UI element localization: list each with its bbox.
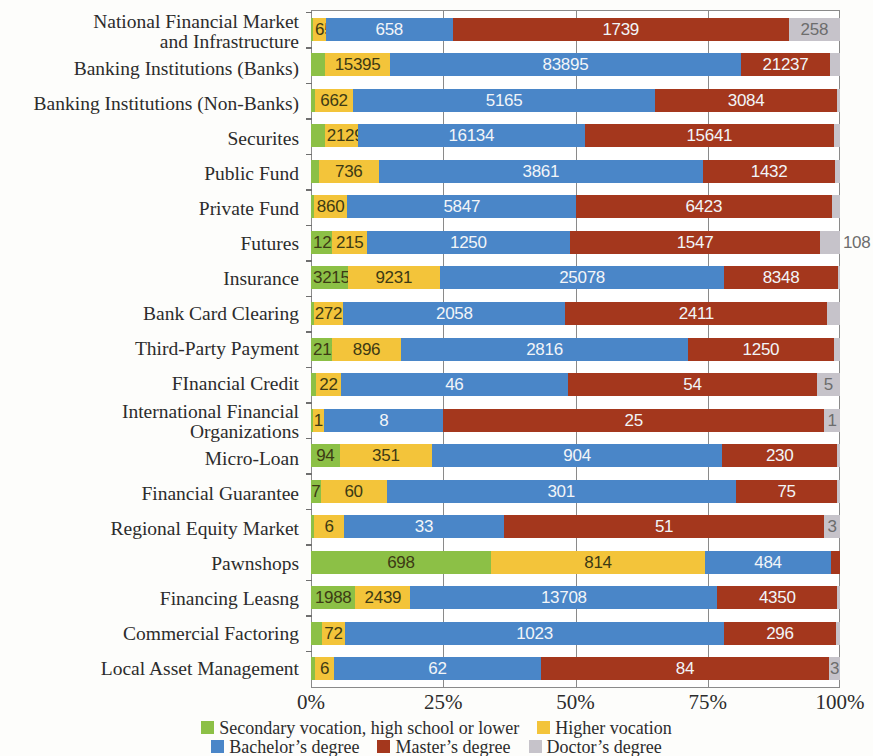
y-axis-label-line: Insurance xyxy=(223,269,299,289)
y-axis-label: Public Fund xyxy=(0,157,305,192)
bar-value-label: 2058 xyxy=(436,305,473,322)
bar-segment-higher-vocation: 6 xyxy=(315,657,335,680)
legend-label: Doctor’s degree xyxy=(547,738,662,756)
bar-value-label: 484 xyxy=(754,554,781,571)
bar-value-label: 351 xyxy=(372,447,399,464)
bar-segment-higher-vocation: 896 xyxy=(332,338,401,361)
legend-swatch-master-icon xyxy=(377,740,390,753)
bar-row: 32159231250788348 xyxy=(311,260,840,296)
y-axis-tick xyxy=(306,331,312,333)
y-axis-label: International FinancialOrganizations xyxy=(0,402,305,442)
bar-value-label: 62 xyxy=(428,660,446,677)
bar-segment-bachelor: 62 xyxy=(334,657,540,680)
bar-value-label: 4350 xyxy=(759,589,796,606)
bar-value-label: 2439 xyxy=(365,589,402,606)
y-axis-tick xyxy=(306,154,312,156)
y-axis-label: Pawnshops xyxy=(0,547,305,582)
y-axis-label-line: Banking Institutions (Non-Banks) xyxy=(34,94,299,114)
y-axis-label: FInancial Credit xyxy=(0,367,305,402)
bar-value-label: 1988 xyxy=(315,589,352,606)
bar-value-label: 25 xyxy=(625,412,643,429)
bar-row: 633513 xyxy=(311,509,840,545)
bar-segment-secondary xyxy=(311,124,325,147)
bar-row: 662843 xyxy=(311,651,840,687)
legend-item[interactable]: Higher vocation xyxy=(537,719,671,737)
bar-segment-higher-vocation: 9231 xyxy=(348,266,441,289)
bar-value-label: 72 xyxy=(324,625,342,642)
bar-value-label: 1 xyxy=(827,412,836,429)
y-axis-label-line: Financial Guarantee xyxy=(141,484,299,504)
y-axis-label: Private Fund xyxy=(0,192,305,227)
bar-segment-higher-vocation: 72 xyxy=(322,622,346,645)
bar-value-label: 3084 xyxy=(728,92,765,109)
bar-row: 21389628161250 xyxy=(311,331,840,367)
bar-segment-bachelor: 83895 xyxy=(390,53,741,76)
bar-value-label: 2816 xyxy=(526,341,563,358)
bar-segment-master: 75 xyxy=(736,480,838,503)
bar-value-label: 736 xyxy=(335,163,362,180)
bar-value-label: 15395 xyxy=(335,56,381,73)
legend-item[interactable]: Secondary vocation, high school or lower xyxy=(201,719,519,737)
bar-segment-secondary xyxy=(311,160,319,183)
bar-value-label: 8348 xyxy=(763,269,800,286)
y-axis-tick xyxy=(306,118,312,120)
y-axis-label: Regional Equity Market xyxy=(0,512,305,547)
bar-segment-bachelor: 16134 xyxy=(358,124,585,147)
bar-segment-bachelor: 8 xyxy=(324,409,443,432)
bar-value-label: 258 xyxy=(801,21,828,38)
bar-segment-higher-vocation: 2129 xyxy=(325,124,358,147)
y-axis-label-line: Private Fund xyxy=(199,199,299,219)
legend-item[interactable]: Bachelor’s degree xyxy=(211,738,359,756)
y-axis-label-line: Futures xyxy=(241,234,300,254)
bar-row: 721023296 xyxy=(311,616,840,652)
legend-item[interactable]: Master’s degree xyxy=(377,738,510,756)
bar-segment-doctor: 5 xyxy=(817,373,840,396)
x-axis-tick-label: 100% xyxy=(816,690,865,715)
bar-segment-doctor xyxy=(832,195,840,218)
y-axis-labels: National Financial Marketand Infrastruct… xyxy=(0,10,305,688)
y-axis-label-line: Bank Card Clearing xyxy=(143,304,299,324)
y-axis-label-line: International Financial xyxy=(122,402,299,422)
bar-segment-doctor xyxy=(836,622,840,645)
bar-value-label: 1250 xyxy=(743,341,780,358)
legend-item[interactable]: Doctor’s degree xyxy=(529,738,662,756)
stacked-bar: 94351904230 xyxy=(311,444,840,467)
y-axis-label-line: Financing Leasng xyxy=(160,589,299,609)
bar-value-label: 15641 xyxy=(686,127,732,144)
bar-segment-master: 54 xyxy=(568,373,817,396)
stacked-bar: 153958389521237 xyxy=(311,53,840,76)
y-axis-label-line: Banking Institutions (Banks) xyxy=(74,59,299,79)
x-axis: 0%25%50%75%100% xyxy=(311,690,840,718)
y-axis-label-line: Pawnshops xyxy=(211,554,299,574)
stacked-bar: 76030175 xyxy=(311,480,840,503)
bar-segment-bachelor: 1250 xyxy=(367,231,570,254)
y-axis-tick xyxy=(306,83,312,85)
bar-segment-doctor: 3 xyxy=(829,657,840,680)
bar-segment-bachelor: 13708 xyxy=(410,586,717,609)
stacked-bar: 86058476423 xyxy=(311,195,840,218)
bar-segment-bachelor: 46 xyxy=(341,373,568,396)
bar-segment-master: 4350 xyxy=(717,586,837,609)
y-axis-tick xyxy=(306,615,312,617)
bar-segment-higher-vocation: 60 xyxy=(321,480,387,503)
stacked-bar: 27220582411 xyxy=(311,302,840,325)
y-axis-tick xyxy=(306,225,312,227)
legend-swatch-bachelor-icon xyxy=(211,740,224,753)
bar-value-label: 2411 xyxy=(679,305,714,322)
bar-segment-doctor xyxy=(834,124,840,147)
bar-segment-secondary: 7 xyxy=(311,480,321,503)
y-axis-label: Securites xyxy=(0,122,305,157)
legend-label: Bachelor’s degree xyxy=(229,738,359,756)
bar-value-label: 6 xyxy=(324,518,333,535)
stacked-bar: 721023296 xyxy=(311,622,840,645)
bar-segment-higher-vocation: 215 xyxy=(332,231,367,254)
legend-label: Higher vocation xyxy=(555,719,671,737)
bar-segment-higher-vocation: 351 xyxy=(340,444,433,467)
bar-segment-doctor: 258 xyxy=(789,18,840,41)
y-axis-label-line: Local Asset Management xyxy=(101,659,299,679)
bar-segment-master: 21237 xyxy=(741,53,830,76)
bar-value-label: 6423 xyxy=(685,198,722,215)
bar-value-label: 51 xyxy=(655,518,673,535)
bar-row: 73638611432 xyxy=(311,154,840,190)
legend-label: Secondary vocation, high school or lower xyxy=(219,719,519,737)
